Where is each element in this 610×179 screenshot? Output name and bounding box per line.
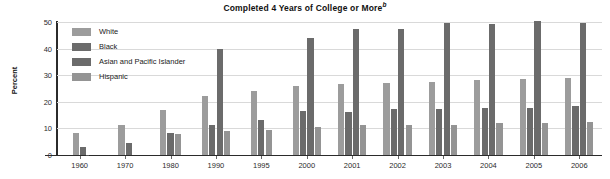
bar-group [557,22,602,155]
bar [451,125,457,155]
y-axis-tick-label: 40 [34,45,52,54]
x-axis-tick-label: 1970 [117,161,134,170]
bar-group [284,22,329,155]
bar [489,24,495,155]
legend-item-label: Hispanic [99,72,128,81]
bar [315,127,321,155]
bar [482,108,488,155]
x-axis-tick-label: 1980 [162,161,179,170]
x-axis-tick-mark [125,156,126,159]
bar [429,82,435,155]
bar [587,122,593,155]
x-axis-tick-mark [488,156,489,159]
bar [565,78,571,155]
bar [444,23,450,155]
legend-item: Hispanic [72,69,262,84]
y-axis-tick-mark [86,155,89,156]
bar [209,125,215,155]
bar-group [330,22,375,155]
bar [224,131,230,155]
bar [202,96,208,155]
bar [300,111,306,155]
bar [258,120,264,155]
bar-chart: Completed 4 Years of College or Moreb Pe… [0,0,610,179]
x-axis-tick-mark [261,156,262,159]
x-axis-tick-label: 2000 [298,161,315,170]
bar [266,130,272,155]
y-axis-tick-label: 20 [34,98,52,107]
bar [572,106,578,155]
x-axis-tick-mark [352,156,353,159]
bar [73,133,79,155]
bar [80,147,86,155]
bar [360,125,366,155]
bar [474,80,480,155]
chart-legend: WhiteBlackAsian and Pacific IslanderHisp… [72,24,262,84]
x-axis-tick-label: 2005 [526,161,543,170]
bar [406,125,412,155]
legend-item-label: White [99,27,118,36]
x-axis-tick-mark [171,156,172,159]
x-axis-tick-label: 1990 [208,161,225,170]
bar [251,91,257,155]
bar-group [466,22,511,155]
legend-swatch-icon [72,28,91,36]
bar [542,123,548,155]
x-axis-tick-label: 2001 [344,161,361,170]
bar [345,112,351,155]
chart-title: Completed 4 Years of College or Moreb [0,3,610,13]
x-axis-tick-mark [534,156,535,159]
y-axis-tick-label: 0 [34,151,52,160]
bar [118,125,124,155]
legend-swatch-icon [72,73,91,81]
y-axis-tick-label: 50 [34,18,52,27]
y-axis-tick-label: 10 [34,124,52,133]
legend-item-label: Black [99,42,117,51]
x-axis-tick-mark [80,156,81,159]
x-axis-tick-label: 2004 [480,161,497,170]
bar [167,133,173,155]
legend-item: Black [72,39,262,54]
x-axis-tick-label: 1960 [71,161,88,170]
bar [383,83,389,155]
bar [160,110,166,155]
x-axis-tick-label: 1995 [253,161,270,170]
bar [436,109,442,155]
x-axis-tick-mark [443,156,444,159]
y-axis-tick-group: 01020304050 [30,22,52,155]
legend-item: White [72,24,262,39]
bar [353,29,359,155]
x-axis-tick-mark [216,156,217,159]
x-axis-tick-mark [398,156,399,159]
legend-swatch-icon [72,43,91,51]
y-axis-tick-label: 30 [34,71,52,80]
bar [338,84,344,155]
bar [520,79,526,155]
chart-title-footnote-marker: b [382,1,386,8]
x-axis-tick-label: 2002 [389,161,406,170]
legend-swatch-icon [72,58,91,66]
legend-item: Asian and Pacific Islander [72,54,262,69]
x-axis-tick-label: 2006 [571,161,588,170]
bar [534,21,540,155]
bar-group [511,22,556,155]
chart-title-text: Completed 4 Years of College or More [223,3,382,13]
bar-group [420,22,465,155]
x-axis-tick-label: 2003 [435,161,452,170]
bar [398,29,404,155]
x-axis-tick-mark [307,156,308,159]
bar [126,143,132,155]
bar [175,134,181,155]
bar-group [375,22,420,155]
legend-item-label: Asian and Pacific Islander [99,57,185,66]
bar [391,109,397,155]
bar [307,38,313,155]
bar [293,86,299,155]
x-axis-line [45,155,602,156]
bar [527,108,533,155]
y-axis-title: Percent [10,51,19,111]
x-axis-tick-mark [579,156,580,159]
bar [496,123,502,155]
bar [580,23,586,155]
